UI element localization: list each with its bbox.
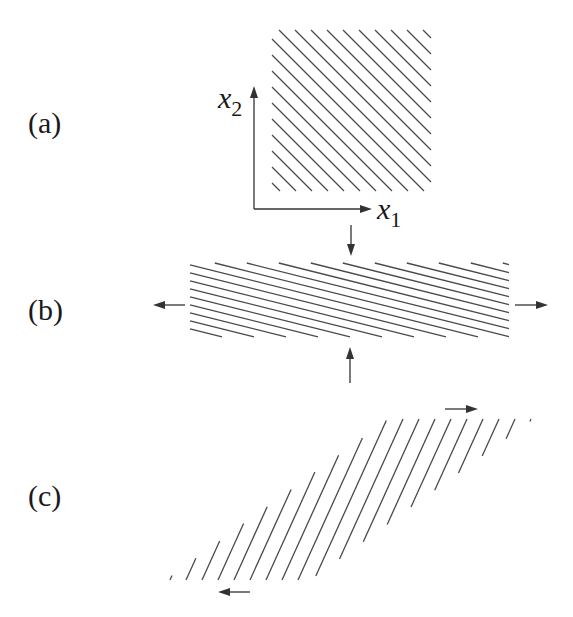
hatch-line: [459, 419, 484, 473]
hatch-line: [250, 489, 291, 580]
hatch-line: [359, 30, 431, 102]
hatch-line: [170, 576, 172, 580]
hatch-line: [343, 263, 509, 305]
hatch-line: [234, 507, 267, 580]
hatch-line: [247, 263, 509, 329]
hatch-line: [439, 263, 509, 281]
square-hatching: [272, 30, 431, 191]
hatch-line: [343, 30, 431, 118]
hatch-line: [190, 289, 382, 337]
stretch-arrow-left: [153, 301, 185, 309]
hatch-line: [272, 87, 376, 191]
hatch-line: [298, 438, 362, 580]
x1-axis-arrowhead-icon: [360, 205, 372, 213]
hatch-line: [218, 524, 244, 580]
hatch-line: [411, 419, 451, 507]
deformation-diagram: (a) (b) (c) x2 x1: [0, 0, 573, 617]
stretched-hatching: [190, 263, 509, 337]
panel-a: x2 x1: [217, 30, 431, 232]
hatch-line: [316, 421, 387, 576]
hatch-line: [190, 281, 414, 337]
hatch-line: [190, 265, 478, 337]
hatch-line: [215, 263, 509, 337]
hatch-line: [311, 30, 431, 150]
hatch-line: [435, 419, 467, 490]
hatch-line: [363, 419, 419, 542]
sheared-hatching: [170, 419, 531, 580]
hatch-line: [327, 30, 431, 134]
panel-label-c: (c): [28, 479, 61, 513]
stretch-arrow-right: [515, 301, 548, 309]
shear-arrow-bottom: [218, 588, 250, 596]
panel-label-b: (b): [28, 293, 63, 327]
hatch-line: [340, 419, 404, 559]
hatch-line: [190, 321, 254, 337]
hatch-line: [202, 541, 220, 580]
hatch-line: [272, 151, 312, 191]
x2-axis-arrowhead-icon: [250, 86, 258, 98]
hatch-line: [282, 455, 339, 580]
hatch-line: [407, 263, 509, 289]
hatch-line: [375, 30, 431, 86]
hatch-line: [272, 119, 344, 191]
shear-arrow-top: [445, 405, 478, 413]
hatch-line: [530, 419, 531, 421]
hatch-line: [272, 71, 392, 191]
panel-b: [153, 225, 548, 383]
arrow-right-icon: [536, 301, 548, 309]
hatch-line: [503, 263, 509, 265]
hatch-line: [190, 329, 222, 337]
x2-axis-label: x2: [217, 81, 242, 121]
arrow-down-icon: [347, 244, 355, 256]
hatch-line: [190, 305, 318, 337]
arrow-left-icon: [153, 301, 165, 309]
hatch-line: [471, 263, 509, 273]
hatch-line: [190, 297, 350, 337]
hatch-line: [272, 183, 280, 191]
hatch-line: [272, 39, 424, 191]
compression-arrow-top: [347, 225, 355, 256]
arrow-left-icon: [218, 588, 230, 596]
hatch-line: [279, 30, 431, 182]
hatch-line: [190, 273, 446, 337]
hatch-line: [506, 419, 515, 439]
panel-c: [170, 405, 531, 596]
hatch-line: [311, 263, 509, 313]
arrow-right-icon: [466, 405, 478, 413]
hatch-line: [423, 30, 431, 38]
hatch-line: [482, 419, 499, 456]
compression-arrow-bottom: [346, 347, 354, 383]
x1-axis-label: x1: [376, 192, 401, 232]
hatch-line: [266, 472, 315, 580]
hatch-line: [186, 558, 196, 580]
panel-label-a: (a): [28, 106, 61, 140]
hatch-line: [272, 103, 360, 191]
arrow-up-icon: [346, 347, 354, 359]
hatch-line: [272, 135, 328, 191]
hatch-line: [391, 30, 431, 70]
